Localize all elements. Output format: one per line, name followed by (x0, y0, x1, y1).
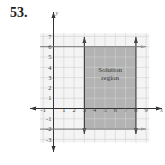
y-tick-label: 1 (48, 94, 51, 101)
y-tick-label: 2 (48, 84, 51, 91)
y-tick-label: -1 (46, 115, 51, 122)
y-axis-arrow-down (52, 146, 56, 152)
x-axis-label: x (159, 107, 163, 113)
y-axis-label: y (55, 10, 59, 16)
region-label-line-1: Solution (90, 66, 130, 74)
x-tick-label: 5 (103, 106, 106, 113)
x-tick-label: 3 (83, 106, 86, 113)
y-tick-label: 5 (48, 53, 51, 60)
x-tick-label: 8 (134, 106, 137, 113)
x-tick-label: -1 (40, 106, 45, 113)
y-tick-label: -2 (46, 125, 51, 132)
x-tick-label: 1 (62, 106, 65, 113)
x-tick-label: 2 (72, 106, 75, 113)
x-tick-label: 9 (145, 106, 148, 113)
solution-region-label: Solution region (90, 66, 130, 82)
y-tick-label: 3 (48, 74, 51, 81)
region-label-line-2: region (90, 74, 130, 82)
inequality-graph: -11234567897654321-1-2-3xy (0, 0, 165, 165)
y-tick-label: -3 (46, 136, 51, 143)
x-axis-arrow-left (30, 107, 36, 111)
